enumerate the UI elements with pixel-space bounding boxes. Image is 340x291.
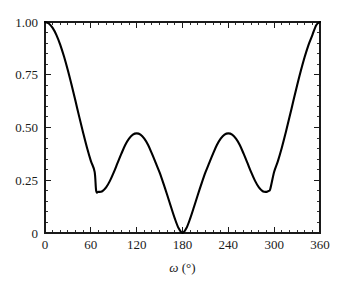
chart-figure: 060120180240300360 00.250.500.751.00 ω (… [0, 0, 340, 291]
x-axis-title: ω (°) [169, 260, 195, 275]
y-tick-label: 1.00 [15, 15, 38, 30]
x-tick-label: 120 [127, 237, 147, 252]
x-tick-label: 0 [42, 237, 49, 252]
x-tick-label: 360 [310, 237, 330, 252]
y-tick-label: 0.50 [15, 120, 38, 135]
x-tick-label: 240 [219, 237, 239, 252]
y-tick-label: 0.25 [15, 173, 38, 188]
x-tick-label: 60 [84, 237, 97, 252]
x-tick-label: 180 [173, 237, 193, 252]
y-axis-tick-labels: 00.250.500.751.00 [15, 15, 38, 241]
x-axis-tick-labels: 060120180240300360 [42, 237, 330, 252]
plot-area-background [45, 22, 320, 233]
y-tick-label: 0 [32, 226, 39, 241]
y-tick-label: 0.75 [15, 67, 38, 82]
x-tick-label: 300 [264, 237, 284, 252]
line-chart: 060120180240300360 00.250.500.751.00 ω (… [0, 0, 340, 291]
